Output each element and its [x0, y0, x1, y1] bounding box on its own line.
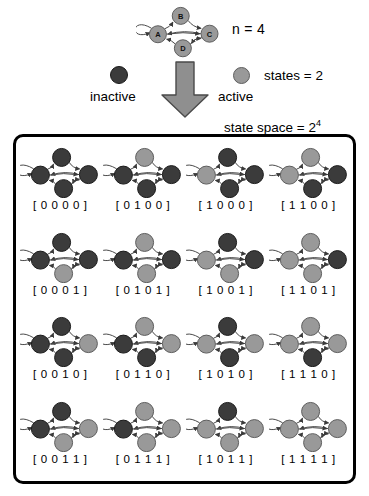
state-vector-label: [ 0 1 0 0 ]	[116, 199, 171, 211]
state-space-label: state space = 24	[224, 118, 321, 135]
state-vector-label: [ 1 1 0 1 ]	[281, 284, 336, 296]
state-vector-label: [ 1 0 1 1 ]	[199, 453, 254, 465]
state-network-diagram	[103, 231, 183, 283]
state-vector-label: [ 1 1 0 0 ]	[281, 199, 336, 211]
state-network-diagram	[186, 400, 266, 452]
state-vector-label: [ 0 0 0 1 ]	[33, 284, 88, 296]
down-arrow-icon	[158, 61, 212, 119]
state-network-diagram	[269, 400, 349, 452]
state-cell: [ 0 0 1 1 ]	[19, 395, 102, 480]
inactive-legend-label: inactive	[90, 89, 136, 104]
state-cell: [ 1 0 1 0 ]	[185, 310, 268, 395]
state-network-diagram	[103, 146, 183, 198]
state-cell: [ 1 1 0 1 ]	[267, 226, 350, 311]
state-network-diagram	[186, 146, 266, 198]
state-cell: [ 1 0 0 1 ]	[185, 226, 268, 311]
state-network-diagram	[186, 231, 266, 283]
state-network-diagram	[269, 315, 349, 367]
state-vector-label: [ 0 0 1 1 ]	[33, 453, 88, 465]
state-vector-label: [ 1 0 1 0 ]	[199, 368, 254, 380]
state-network-diagram	[269, 231, 349, 283]
state-space-text: state space = 2	[224, 120, 316, 135]
state-cell: [ 0 0 0 1 ]	[19, 226, 102, 311]
state-cell: [ 0 0 0 0 ]	[19, 141, 102, 226]
svg-text:C: C	[207, 30, 213, 39]
master-network-diagram: ABCD	[136, 4, 222, 58]
legend-area: ABCD n = 4 inactive active states = 2 st…	[0, 0, 369, 136]
states-count-label: states = 2	[264, 68, 323, 83]
active-swatch-icon	[233, 67, 250, 84]
state-network-diagram	[186, 315, 266, 367]
state-vector-label: [ 0 0 0 0 ]	[33, 199, 88, 211]
svg-text:D: D	[180, 44, 186, 53]
state-network-diagram	[103, 400, 183, 452]
state-vector-label: [ 0 1 1 1 ]	[116, 453, 171, 465]
state-cell: [ 1 1 1 0 ]	[267, 310, 350, 395]
state-network-diagram	[269, 146, 349, 198]
states-count-text: states = 2	[264, 68, 323, 83]
state-space-box: [ 0 0 0 0 ][ 0 1 0 0 ][ 1 0 0 0 ][ 1 1 0…	[13, 134, 356, 484]
state-network-diagram	[103, 315, 183, 367]
svg-text:A: A	[155, 30, 161, 39]
state-cell: [ 0 1 1 0 ]	[102, 310, 185, 395]
state-vector-label: [ 1 0 0 1 ]	[199, 284, 254, 296]
state-network-diagram	[20, 315, 100, 367]
state-vector-label: [ 1 1 1 1 ]	[281, 453, 336, 465]
state-cell: [ 1 0 0 0 ]	[185, 141, 268, 226]
node-count-label: n = 4	[232, 21, 265, 37]
state-network-diagram	[20, 146, 100, 198]
state-cell: [ 0 0 1 0 ]	[19, 310, 102, 395]
state-vector-label: [ 0 1 1 0 ]	[116, 368, 171, 380]
state-vector-label: [ 0 1 0 1 ]	[116, 284, 171, 296]
state-vector-label: [ 1 1 1 0 ]	[281, 368, 336, 380]
state-cell: [ 1 1 0 0 ]	[267, 141, 350, 226]
inactive-swatch-icon	[110, 66, 128, 84]
state-cell: [ 1 0 1 1 ]	[185, 395, 268, 480]
state-vector-label: [ 0 0 1 0 ]	[33, 368, 88, 380]
state-cell: [ 0 1 0 0 ]	[102, 141, 185, 226]
active-legend-label: active	[218, 89, 253, 104]
svg-text:B: B	[178, 12, 184, 21]
state-vector-label: [ 1 0 0 0 ]	[199, 199, 254, 211]
state-network-diagram	[20, 400, 100, 452]
state-grid: [ 0 0 0 0 ][ 0 1 0 0 ][ 1 0 0 0 ][ 1 1 0…	[16, 137, 353, 481]
state-space-exponent: 4	[316, 118, 321, 128]
state-cell: [ 1 1 1 1 ]	[267, 395, 350, 480]
state-cell: [ 0 1 1 1 ]	[102, 395, 185, 480]
state-cell: [ 0 1 0 1 ]	[102, 226, 185, 311]
state-network-diagram	[20, 231, 100, 283]
